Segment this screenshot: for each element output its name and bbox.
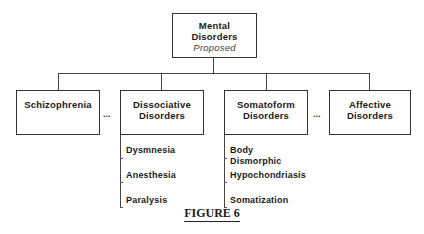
category-label: Somatoform — [225, 99, 307, 110]
drop-connector-somatoform — [266, 73, 267, 90]
list-item-hypochondriasis: Hypochondriasis — [230, 170, 306, 181]
list-item-anesthesia: Anesthesia — [126, 170, 176, 181]
item-line: Body — [230, 145, 282, 156]
item-line: Dismorphic — [230, 156, 282, 167]
list-item-somatization: Somatization — [230, 195, 288, 206]
bracket-tick — [120, 158, 123, 159]
category-label: Affective — [330, 99, 410, 110]
drop-connector-dissociative — [161, 73, 162, 90]
figure-caption-text: FIGURE 6 — [184, 206, 240, 222]
root-subtitle: Proposed — [173, 42, 256, 53]
dissociative-list-bracket — [120, 135, 121, 208]
list-item-body-dismorphic: Body Dismorphic — [230, 145, 282, 167]
category-dissociative-disorders: Dissociative Disorders — [120, 90, 204, 135]
bracket-tick — [224, 182, 227, 183]
root-stem-connector — [213, 58, 214, 73]
ellipsis-omitted-categories: ... — [313, 109, 321, 119]
drop-connector-affective — [369, 73, 370, 90]
category-label: Disorders — [330, 110, 410, 121]
root-node-mental-disorders: Mental Disorders Proposed — [172, 13, 257, 58]
category-label: Dissociative — [121, 99, 203, 110]
figure-caption: FIGURE 6 — [0, 206, 424, 221]
list-item-dysmnesia: Dysmnesia — [126, 145, 175, 156]
list-item-paralysis: Paralysis — [126, 195, 167, 206]
ellipsis-omitted-categories: ... — [103, 109, 111, 119]
root-title-line2: Disorders — [173, 31, 256, 42]
category-label: Disorders — [225, 110, 307, 121]
drop-connector-schizophrenia — [58, 73, 59, 90]
category-somatoform-disorders: Somatoform Disorders — [224, 90, 308, 135]
category-schizophrenia: Schizophrenia — [16, 90, 100, 135]
somatoform-list-bracket — [224, 135, 225, 208]
bracket-tick — [120, 182, 123, 183]
root-title-line1: Mental — [173, 20, 256, 31]
category-affective-disorders: Affective Disorders — [329, 90, 411, 135]
bracket-tick — [224, 158, 227, 159]
horizontal-connector — [58, 73, 370, 74]
category-label: Schizophrenia — [17, 99, 99, 110]
category-label: Disorders — [121, 110, 203, 121]
